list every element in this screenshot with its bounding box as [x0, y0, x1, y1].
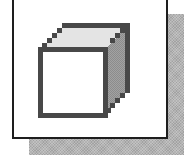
cube-front-face [38, 47, 108, 118]
cube-icon [0, 0, 191, 165]
